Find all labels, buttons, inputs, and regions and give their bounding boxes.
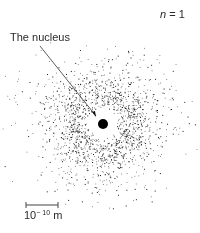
nucleus-label: The nucleus: [10, 31, 70, 43]
n-variable: n: [160, 8, 166, 20]
nucleus-pointer-line: [40, 46, 96, 116]
scale-exponent: − 10: [36, 209, 50, 216]
nucleus: [98, 119, 108, 129]
quantum-number-label: n = 1: [160, 8, 185, 20]
pointer-arrowhead-icon: [92, 111, 96, 117]
scale-base: 10: [24, 209, 36, 221]
scale-label: 10− 10 m: [24, 209, 62, 221]
equals-sign: =: [169, 8, 175, 20]
scale-unit: m: [53, 209, 62, 221]
n-value: 1: [179, 8, 185, 20]
scale-bar: [26, 202, 58, 208]
